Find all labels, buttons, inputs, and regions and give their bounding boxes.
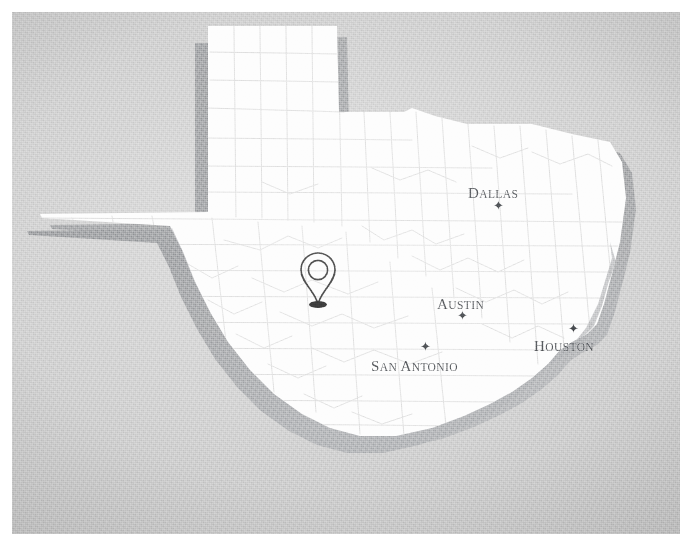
city-star-austin: ✦ — [457, 309, 468, 322]
map-pin-icon — [298, 250, 338, 312]
city-star-houston: ✦ — [568, 322, 579, 335]
city-star-dallas: ✦ — [493, 199, 504, 212]
city-label-san-antonio-rest2: NTONIO — [412, 361, 458, 373]
texas-map-svg — [12, 12, 680, 534]
map-photo-page: DALLAS ✦ AUSTIN ✦ SAN ANTONIO ✦ HOUSTON … — [0, 0, 686, 546]
city-label-houston-cap: H — [534, 338, 545, 354]
texas-map — [12, 12, 680, 534]
city-label-san-antonio-cap2: A — [400, 358, 411, 374]
city-label-san-antonio: SAN ANTONIO — [371, 357, 458, 375]
city-label-austin-cap: A — [437, 296, 448, 312]
map-pin-marker[interactable] — [298, 250, 338, 312]
city-star-san-antonio: ✦ — [420, 340, 431, 353]
city-label-san-antonio-rest: AN — [380, 361, 401, 373]
city-label-houston: HOUSTON — [534, 337, 594, 355]
city-label-houston-rest: OUSTON — [545, 341, 594, 353]
photographic-print: DALLAS ✦ AUSTIN ✦ SAN ANTONIO ✦ HOUSTON … — [12, 12, 680, 534]
city-label-dallas-cap: D — [468, 185, 479, 201]
city-label-san-antonio-cap: S — [371, 358, 380, 374]
